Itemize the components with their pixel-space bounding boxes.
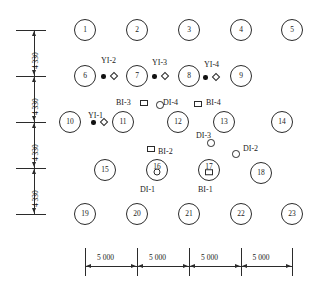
pile-11[interactable]: 11 [112, 111, 134, 133]
pile-number-label: 22 [237, 210, 245, 218]
horizontal-dimension-text: 5 000 [201, 253, 218, 262]
pile-number-label: 19 [81, 210, 89, 218]
vertical-dimension-text: 4 330 [31, 144, 40, 161]
pile-number-label: 7 [135, 72, 139, 80]
pile-number-label: 5 [290, 26, 294, 34]
horizontal-extension-tick [189, 248, 190, 276]
vertical-dimension-text: 4 330 [31, 98, 40, 115]
horizontal-extension-tick [292, 248, 293, 276]
dimension-arrow-right [286, 264, 291, 268]
pile-12[interactable]: 12 [167, 111, 189, 133]
pile-number-label: 13 [220, 118, 228, 126]
dimension-arrow-up [32, 169, 36, 174]
pile-number-label: 20 [133, 210, 141, 218]
instrument-label-yi-4: YI-4 [204, 61, 219, 69]
inclinometer-square-icon [140, 100, 148, 106]
pile-layout-diagram: 4 3304 3304 3304 330 5 0005 0005 0005 00… [0, 0, 318, 284]
dimension-arrow-down [32, 208, 36, 213]
dimension-arrow-right [131, 264, 136, 268]
inclinometer-gauge-icon [205, 170, 213, 176]
strain-gauge-dot-icon [203, 75, 208, 80]
pile-number-label: 9 [239, 72, 243, 80]
pile-number-label: 8 [187, 72, 191, 80]
settlement-circle-icon [232, 150, 240, 158]
dimension-arrow-left [86, 264, 91, 268]
inclinometer-square-icon [147, 146, 155, 152]
instrument-label-yi-2: YI-2 [101, 57, 116, 65]
horizontal-dimension-text: 5 000 [149, 253, 166, 262]
pile-9[interactable]: 9 [230, 65, 252, 87]
instrument-label-di-2: DI-2 [243, 145, 258, 153]
pile-21[interactable]: 21 [178, 203, 200, 225]
dimension-arrow-up [32, 31, 36, 36]
strain-gauge-dot-icon [152, 74, 157, 79]
pile-4[interactable]: 4 [230, 19, 252, 41]
strain-gauge-dot-icon [91, 120, 96, 125]
strain-gauge-diamond-icon [110, 72, 118, 80]
dimension-arrow-right [183, 264, 188, 268]
dimension-arrow-down [32, 116, 36, 121]
dimension-arrow-right [235, 264, 240, 268]
dimension-arrow-up [32, 77, 36, 82]
pile-22[interactable]: 22 [230, 203, 252, 225]
dimension-arrow-down [32, 162, 36, 167]
pile-3[interactable]: 3 [178, 19, 200, 41]
vertical-dimension-text: 4 330 [31, 52, 40, 69]
pile-number-label: 21 [185, 210, 193, 218]
instrument-label-di-4: DI-4 [163, 99, 178, 107]
instrument-label-di-3: DI-3 [196, 132, 211, 140]
pile-6[interactable]: 6 [74, 65, 96, 87]
pile-number-label: 4 [239, 26, 243, 34]
horizontal-extension-tick [137, 248, 138, 276]
dimension-arrow-down [32, 70, 36, 75]
horizontal-dimension-text: 5 000 [97, 253, 114, 262]
strain-gauge-dot-icon [101, 74, 106, 79]
pile-2[interactable]: 2 [126, 19, 148, 41]
pile-8[interactable]: 8 [178, 65, 200, 87]
vertical-dimension-text: 4 330 [31, 190, 40, 207]
pile-16[interactable]: 16 [146, 159, 168, 181]
dimension-arrow-left [190, 264, 195, 268]
pile-15[interactable]: 15 [94, 159, 116, 181]
strain-gauge-diamond-icon [161, 72, 169, 80]
pile-number-label: 14 [278, 118, 286, 126]
pile-number-label: 1 [83, 26, 87, 34]
pile-number-label: 2 [135, 26, 139, 34]
instrument-label-bi-1: BI-1 [198, 186, 213, 194]
pile-23[interactable]: 23 [281, 203, 303, 225]
pile-5[interactable]: 5 [281, 19, 303, 41]
horizontal-dimension-text: 5 000 [253, 253, 270, 262]
instrument-label-bi-3: BI-3 [116, 99, 131, 107]
pile-number-label: 12 [174, 118, 182, 126]
instrument-label-bi-2: BI-2 [158, 148, 173, 156]
dimension-arrow-left [242, 264, 247, 268]
horizontal-extension-tick [85, 248, 86, 276]
pile-number-label: 10 [66, 118, 74, 126]
instrument-label-di-1: DI-1 [140, 186, 155, 194]
pile-18[interactable]: 18 [250, 162, 272, 184]
strain-gauge-diamond-icon [212, 73, 220, 81]
inclinometer-square-icon [194, 101, 202, 107]
instrument-label-yi-1: YI-1 [88, 112, 103, 120]
pile-number-label: 11 [119, 118, 126, 126]
pile-number-label: 6 [83, 72, 87, 80]
settlement-gauge-icon [154, 169, 161, 176]
vertical-extension-tick [16, 214, 46, 215]
pile-7[interactable]: 7 [126, 65, 148, 87]
pile-number-label: 15 [101, 166, 109, 174]
instrument-label-yi-3: YI-3 [152, 59, 167, 67]
pile-20[interactable]: 20 [126, 203, 148, 225]
pile-14[interactable]: 14 [271, 111, 293, 133]
pile-number-label: 23 [288, 210, 296, 218]
horizontal-extension-tick [241, 248, 242, 276]
pile-19[interactable]: 19 [74, 203, 96, 225]
dimension-arrow-up [32, 123, 36, 128]
pile-number-label: 3 [187, 26, 191, 34]
settlement-circle-icon [207, 139, 215, 147]
pile-13[interactable]: 13 [213, 111, 235, 133]
dimension-arrow-left [138, 264, 143, 268]
pile-10[interactable]: 10 [59, 111, 81, 133]
pile-number-label: 18 [257, 169, 265, 177]
pile-1[interactable]: 1 [74, 19, 96, 41]
pile-17[interactable]: 17 [198, 159, 220, 181]
